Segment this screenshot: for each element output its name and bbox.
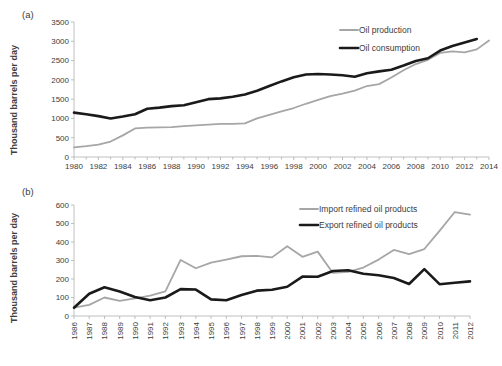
x-tick-label: 1994 [236, 162, 254, 171]
x-tick-label: 1980 [65, 162, 83, 171]
y-tick-label: 0 [65, 312, 70, 321]
x-tick-label: 1992 [161, 321, 170, 339]
figure-container: (a) Thousand barrels per day 05001000150… [0, 0, 502, 366]
y-tick-label: 1000 [51, 114, 69, 123]
y-tick-label: 600 [56, 201, 70, 210]
y-tick-label: 300 [56, 256, 70, 265]
legend-label-1: Oil consumption [359, 43, 420, 53]
y-tick-label: 100 [56, 293, 70, 302]
x-tick-label: 2000 [309, 162, 327, 171]
x-tick-label: 2012 [456, 162, 474, 171]
x-tick-label: 2009 [420, 321, 429, 339]
x-tick-label: 1990 [131, 321, 140, 339]
x-tick-label: 1989 [116, 321, 125, 339]
x-tick-label: 1998 [285, 162, 303, 171]
y-tick-label: 500 [56, 219, 70, 228]
x-tick-label: 1986 [138, 162, 156, 171]
x-tick-label: 1988 [163, 162, 181, 171]
x-tick-label: 2005 [359, 321, 368, 339]
y-tick-label: 2000 [51, 76, 69, 85]
x-tick-label: 1996 [222, 321, 231, 339]
y-tick-label: 1500 [51, 95, 69, 104]
x-tick-label: 1987 [85, 321, 94, 339]
series-line-1 [74, 269, 470, 307]
x-tick-label: 2006 [375, 321, 384, 339]
x-tick-label: 2002 [334, 162, 352, 171]
y-tick-label: 400 [56, 238, 70, 247]
x-tick-label: 1991 [146, 321, 155, 339]
x-tick-label: 1995 [207, 321, 216, 339]
x-tick-label: 1996 [260, 162, 278, 171]
y-tick-label: 2500 [51, 56, 69, 65]
x-tick-label: 1999 [268, 321, 277, 339]
y-tick-label: 0 [65, 153, 70, 162]
chart-panel-a: (a) Thousand barrels per day 05001000150… [0, 0, 502, 183]
x-tick-label: 2001 [298, 321, 307, 339]
chart-b-plot: 0100200300400500600198619871988198919901… [0, 183, 502, 366]
x-tick-label: 1984 [114, 162, 132, 171]
x-tick-label: 1994 [192, 321, 201, 339]
legend-label-1: Export refined oil products [319, 220, 418, 230]
x-tick-label: 1993 [177, 321, 186, 339]
x-tick-label: 1986 [70, 321, 79, 339]
x-tick-label: 2008 [407, 162, 425, 171]
x-tick-label: 2011 [451, 321, 460, 339]
x-tick-label: 1990 [187, 162, 205, 171]
x-tick-label: 1988 [100, 321, 109, 339]
x-tick-label: 1982 [90, 162, 108, 171]
x-tick-label: 2008 [405, 321, 414, 339]
x-tick-label: 1997 [238, 321, 247, 339]
x-tick-label: 2012 [466, 321, 475, 339]
x-tick-label: 2003 [329, 321, 338, 339]
x-tick-label: 2010 [431, 162, 449, 171]
legend-label-0: Import refined oil products [319, 204, 417, 214]
x-tick-label: 1998 [253, 321, 262, 339]
y-tick-label: 3000 [51, 37, 69, 46]
legend-label-0: Oil production [359, 25, 412, 35]
x-tick-label: 2010 [436, 321, 445, 339]
x-tick-label: 2014 [480, 162, 498, 171]
x-tick-label: 2000 [283, 321, 292, 339]
series-line-0 [74, 41, 489, 148]
x-tick-label: 2004 [344, 321, 353, 339]
x-tick-label: 2006 [382, 162, 400, 171]
x-tick-label: 2004 [358, 162, 376, 171]
x-tick-label: 2007 [390, 321, 399, 339]
y-tick-label: 200 [56, 275, 70, 284]
y-tick-label: 3500 [51, 18, 69, 27]
y-tick-label: 500 [56, 134, 70, 143]
x-tick-label: 2002 [314, 321, 323, 339]
chart-a-plot: 0500100015002000250030003500198019821984… [0, 0, 502, 183]
chart-panel-b: (b) Thousand barrels per day 01002003004… [0, 183, 502, 366]
x-tick-label: 1992 [212, 162, 230, 171]
